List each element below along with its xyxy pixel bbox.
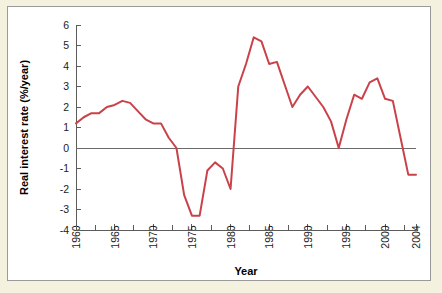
y-tick-label: -3 [60, 203, 69, 215]
x-tick-label: 1965 [109, 225, 121, 249]
x-tick-label: 1970 [147, 225, 159, 249]
x-tick-label: 1975 [186, 225, 198, 249]
y-tick-label: 6 [63, 19, 69, 31]
x-tick-label: 1980 [225, 225, 237, 249]
x-axis-tick-group: 1960196519701975198019851990199520002004 [70, 224, 422, 249]
y-tick-label: 3 [63, 80, 69, 92]
y-tick-label: 2 [63, 101, 69, 113]
figure-root: 6543210-1-2-3-4 196019651970197519801985… [0, 0, 442, 293]
y-axis-title: Real interest rate (%/year) [18, 60, 30, 195]
y-axis-tick-group: 6543210-1-2-3-4 [60, 19, 81, 236]
y-tick-label: -2 [60, 183, 69, 195]
x-tick-label: 1985 [263, 225, 275, 249]
series-line-real-interest-rate [76, 37, 416, 215]
x-axis-title: Year [234, 265, 258, 277]
y-tick-label: 0 [63, 142, 69, 154]
x-tick-label: 2004 [410, 225, 422, 249]
y-tick-label: 1 [63, 121, 69, 133]
y-tick-label: -1 [60, 162, 69, 174]
y-tick-label: 4 [63, 60, 69, 72]
y-tick-label: -4 [60, 224, 69, 236]
x-tick-label: 1990 [302, 225, 314, 249]
x-tick-label: 1995 [340, 225, 352, 249]
chart-frame: 6543210-1-2-3-4 196019651970197519801985… [7, 6, 431, 281]
real-interest-rate-line-chart: 6543210-1-2-3-4 196019651970197519801985… [8, 7, 432, 282]
y-tick-label: 5 [63, 39, 69, 51]
x-tick-label: 2000 [379, 225, 391, 249]
